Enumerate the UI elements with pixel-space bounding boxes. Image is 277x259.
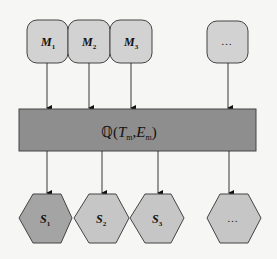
input-node-m2: M2 [68,20,110,63]
output-node-s3: S3 [130,194,184,243]
diagram-canvas: M1 M2 M3 … ℚ(Tm,Em) S1 S2 [0,0,277,259]
input-node-m1: M1 [27,20,68,63]
output-node-s1: S1 [19,194,72,243]
svg-text:…: … [221,35,232,47]
svg-text:…: … [227,212,238,224]
input-node-m3: M3 [110,20,152,63]
output-node-s2: S2 [74,194,129,243]
input-node-ellipsis: … [207,21,248,63]
output-node-ellipsis: … [207,194,261,243]
process-block: ℚ(Tm,Em) [19,109,256,151]
input-arrows [47,63,228,108]
output-arrows [47,151,229,193]
